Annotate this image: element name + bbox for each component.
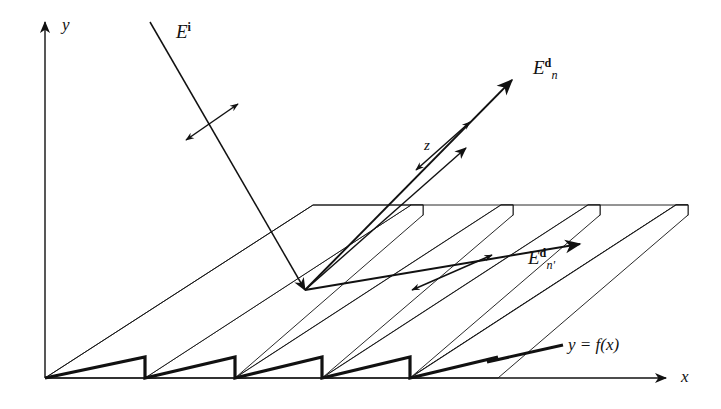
figure-canvas: y x z Ei Edn Edn' y = f(x) [0, 0, 721, 409]
profile-function-label: y = f(x) [568, 336, 619, 353]
incident-field-superscript: i [188, 20, 191, 34]
diffracted-n-field-label: Edn [533, 58, 557, 77]
diffracted-ray-n-group [305, 80, 512, 290]
incident-ray-line [150, 22, 305, 290]
diffracted-nprime-subscript: n' [546, 258, 555, 272]
diffracted-n-subscript: n [551, 68, 557, 82]
diffracted-nprime-base: E [528, 247, 540, 268]
incident-field-base: E [176, 21, 188, 42]
x-axis-label: x [681, 368, 689, 385]
incident-ray-group [150, 22, 305, 290]
diffracted-ray-n-line [305, 80, 512, 290]
diffracted-n-base: E [533, 57, 545, 78]
diffracted-nprime-field-label: Edn' [528, 248, 555, 267]
y-axis-label: y [62, 16, 70, 33]
z-axis-label: z [424, 138, 430, 153]
incident-polarization-arrow [186, 104, 238, 140]
incident-field-label: Ei [176, 22, 191, 41]
